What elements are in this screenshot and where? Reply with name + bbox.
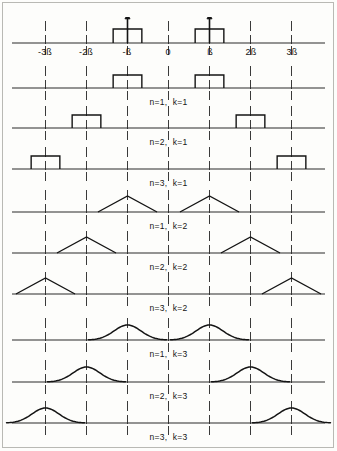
panel-n2k1: n=2, k=1 — [0, 102, 337, 148]
x-tick-label-0: -3ß — [38, 47, 52, 57]
panel-caption-n3k2: n=3, k=2 — [0, 303, 337, 313]
spline-pulse-figure: -3ß-2ß-ß0ß2ß3ßn=1, k=1n=2, k=1n=3, k=1n=… — [0, 0, 337, 451]
x-axis-tick-labels: -3ß-2ß-ß0ß2ß3ß — [0, 47, 337, 59]
panel-n2k3: n=2, k=3 — [0, 356, 337, 402]
panel-reference: -3ß-2ß-ß0ß2ß3ß — [0, 17, 337, 63]
pulse-reference-neg1 — [113, 17, 142, 43]
x-tick-label-5: 2ß — [246, 47, 257, 57]
panel-n1k2: n=1, k=2 — [0, 186, 337, 232]
x-tick-label-4: ß — [207, 47, 213, 57]
x-tick-label-1: -2ß — [79, 47, 93, 57]
x-tick-label-6: 3ß — [287, 47, 298, 57]
pulse-reference-pos1 — [195, 17, 224, 43]
panel-n3k3: n=3, k=3 — [0, 397, 337, 443]
panel-n3k2: n=3, k=2 — [0, 268, 337, 314]
panel-caption-n3k3: n=3, k=3 — [0, 432, 337, 442]
x-tick-label-3: 0 — [165, 47, 170, 57]
x-tick-label-2: -ß — [123, 47, 132, 57]
panel-n2k2: n=2, k=2 — [0, 227, 337, 273]
panel-n1k3: n=1, k=3 — [0, 314, 337, 360]
panel-n3k1: n=3, k=1 — [0, 143, 337, 189]
